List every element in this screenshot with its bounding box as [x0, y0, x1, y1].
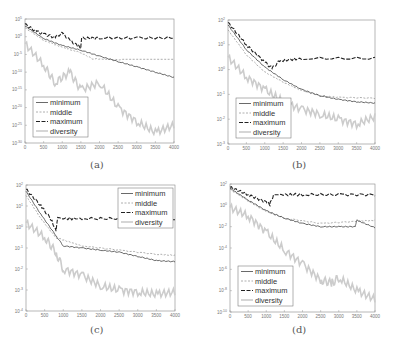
x-tick-label: 2500 — [316, 314, 327, 319]
caption-b: (b) — [292, 159, 306, 170]
y-tick-label: 10-8 — [219, 287, 227, 293]
legend-label-minimum: minimum — [255, 267, 285, 276]
y-tick-label: 10-2 — [219, 223, 227, 229]
caption-d: (d) — [292, 324, 306, 335]
legend-label-middle: middle — [255, 277, 277, 286]
y-tick-label: 102 — [220, 181, 227, 187]
y-tick-label: 100 — [220, 202, 227, 208]
x-tick-label: 1500 — [279, 314, 290, 319]
legend-label-diversity: diversity — [255, 296, 283, 305]
x-tick-label: 0 — [229, 314, 232, 319]
x-tick-label: 2000 — [297, 314, 308, 319]
subplot-d: 0500100015002000250030003500400010210010… — [0, 0, 395, 356]
x-tick-label: 500 — [244, 314, 252, 319]
caption-a: (a) — [90, 159, 104, 170]
x-tick-label: 4000 — [370, 314, 381, 319]
caption-c: (c) — [90, 324, 103, 335]
legend: minimummiddlemaximumdiversity — [238, 266, 293, 306]
y-tick-label: 10-4 — [219, 245, 227, 251]
x-tick-label: 1000 — [261, 314, 272, 319]
y-tick-label: 10-10 — [217, 309, 227, 315]
legend-label-maximum: maximum — [255, 286, 288, 295]
x-tick-label: 3000 — [334, 314, 345, 319]
y-tick-label: 10-6 — [219, 266, 227, 272]
x-tick-label: 3500 — [352, 314, 363, 319]
